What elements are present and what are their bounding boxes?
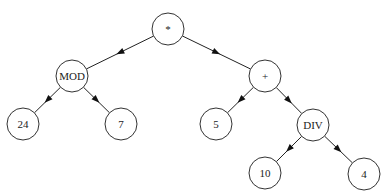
tree-node-div: DIV bbox=[297, 109, 329, 141]
edge-root-to-plus bbox=[182, 36, 250, 69]
tree-node-n10: 10 bbox=[249, 157, 281, 189]
edge-root-to-mod bbox=[86, 36, 153, 69]
arrowhead-icon bbox=[212, 48, 221, 54]
node-label: 5 bbox=[213, 118, 219, 130]
node-label: 4 bbox=[361, 168, 367, 180]
tree-node-root: * bbox=[152, 13, 184, 45]
tree-node-n24: 24 bbox=[7, 108, 39, 140]
edge-div-to-n10 bbox=[276, 136, 301, 161]
tree-node-n5: 5 bbox=[200, 108, 232, 140]
nodes-layer: *MOD+2475DIV104 bbox=[7, 13, 380, 190]
arrowhead-icon bbox=[116, 48, 125, 54]
edge-div-to-n4 bbox=[325, 136, 353, 163]
edges-layer bbox=[34, 36, 352, 163]
expression-tree-diagram: *MOD+2475DIV104 bbox=[0, 0, 388, 196]
edge-mod-to-n7 bbox=[83, 87, 109, 113]
node-label: * bbox=[165, 23, 171, 35]
node-label: 24 bbox=[18, 118, 30, 130]
node-label: 7 bbox=[118, 118, 124, 130]
tree-node-n4: 4 bbox=[348, 158, 380, 190]
edge-plus-to-div bbox=[276, 87, 302, 113]
edge-mod-to-n24 bbox=[34, 87, 60, 113]
tree-node-n7: 7 bbox=[105, 108, 137, 140]
tree-node-plus: + bbox=[249, 60, 281, 92]
edge-plus-to-n5 bbox=[227, 87, 253, 113]
node-label: + bbox=[262, 70, 268, 82]
node-label: 10 bbox=[260, 167, 272, 179]
tree-node-mod: MOD bbox=[56, 60, 88, 92]
node-label: MOD bbox=[59, 70, 85, 82]
node-label: DIV bbox=[303, 119, 323, 131]
